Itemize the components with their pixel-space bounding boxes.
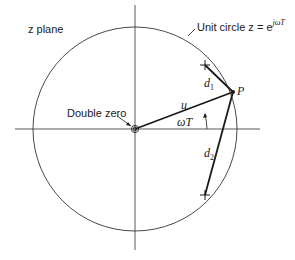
unit-circle-exponent: jωT	[273, 18, 285, 27]
diagram-canvas	[0, 0, 295, 260]
unit-circle-leader	[188, 29, 195, 36]
d1-subscript: 1	[210, 83, 214, 92]
double-zero-label: Double zero	[67, 108, 126, 119]
d2-label: d2	[204, 147, 214, 159]
vector-d2	[205, 92, 233, 195]
unit-circle-label: Unit circle z = ejωT	[197, 22, 285, 33]
angle-arrowhead	[203, 113, 207, 118]
point-p-label: P	[237, 85, 244, 97]
d2-subscript: 2	[210, 153, 214, 162]
d1-label: d1	[204, 77, 214, 89]
angle-label: ωT	[177, 116, 192, 128]
unit-circle-label-text: Unit circle z = e	[197, 21, 273, 33]
vector-u-label: u	[181, 99, 187, 111]
z-plane-diagram: z plane Unit circle z = ejωT Double zero…	[0, 0, 295, 260]
plane-label: z plane	[28, 24, 63, 35]
point-p-marker	[231, 90, 235, 94]
pole-lower-icon	[200, 190, 210, 200]
